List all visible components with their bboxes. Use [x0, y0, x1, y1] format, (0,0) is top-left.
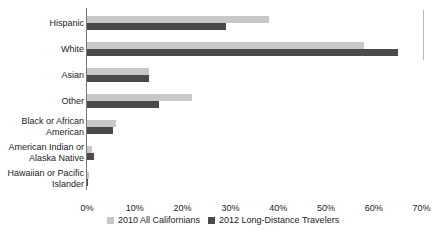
x-tick-label: 70%	[413, 203, 431, 213]
horizontal-bar-chart: HispanicWhiteAsianOtherBlack or African …	[0, 0, 434, 230]
bar-2012	[87, 101, 159, 108]
bar-2012	[87, 127, 113, 134]
x-tick-label: 50%	[317, 203, 335, 213]
bar-2012	[87, 179, 88, 186]
x-tick-label: 10%	[126, 203, 144, 213]
legend-swatch-2010	[107, 217, 114, 224]
bar-2010	[87, 42, 364, 49]
x-tick-label: 40%	[269, 203, 287, 213]
legend-item-2010: 2010 All Californians	[107, 215, 200, 225]
right-border-line	[423, 10, 424, 60]
x-tick-label: 0%	[80, 203, 93, 213]
bar-2012	[87, 153, 94, 160]
x-tick-label: 60%	[365, 203, 383, 213]
category-label: American Indian or Alaska Native	[8, 142, 84, 164]
legend-swatch-2012	[208, 217, 215, 224]
x-tick-label: 20%	[174, 203, 192, 213]
legend-label-2012: 2012 Long-Distance Travelers	[219, 215, 339, 225]
bar-2012	[87, 49, 398, 56]
bar-2012	[87, 23, 226, 30]
bar-2012	[87, 75, 149, 82]
category-label: Asian	[61, 70, 84, 81]
bar-2010	[87, 68, 149, 75]
category-label: Hawaiian or Pacific Islander	[7, 168, 84, 190]
bar-2010	[87, 172, 89, 179]
category-label: Other	[61, 96, 84, 107]
legend-item-2012: 2012 Long-Distance Travelers	[208, 215, 339, 225]
bar-2010	[87, 146, 92, 153]
category-label: Black or African American	[21, 116, 84, 138]
category-label: White	[61, 44, 84, 55]
x-tick-label: 30%	[221, 203, 239, 213]
bar-2010	[87, 120, 116, 127]
bar-2010	[87, 94, 192, 101]
bar-2010	[87, 16, 269, 23]
category-label: Hispanic	[49, 18, 84, 29]
legend: 2010 All Californians 2012 Long-Distance…	[107, 215, 347, 225]
legend-label-2010: 2010 All Californians	[118, 215, 200, 225]
